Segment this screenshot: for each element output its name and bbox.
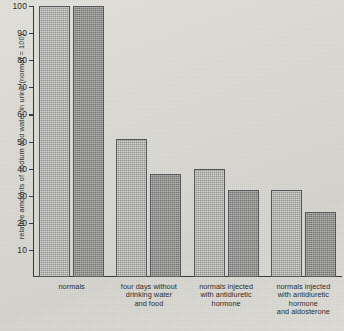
bar-sodium-3 [194,169,225,277]
x-axis-category-line: and aldosterone [257,308,344,316]
y-axis-tick-label: 70 [17,82,27,92]
y-axis-tick-label: 10 [17,245,27,255]
bar-chart: relative amounts of sodium and water in … [0,0,344,331]
bar-water-1 [73,6,104,277]
bar-water-2 [150,174,181,277]
y-axis-tick-label: 80 [17,55,27,65]
bar-sodium-2 [116,139,147,277]
y-axis-tick [29,169,34,170]
y-axis-tick-label: 20 [17,218,27,228]
y-axis-tick [29,114,34,115]
y-axis-tick [29,60,34,61]
y-axis-tick-label: 100 [12,1,27,11]
y-axis-tick [29,142,34,143]
y-axis-tick [29,250,34,251]
y-axis-tick-label: 90 [17,28,27,38]
plot-area: 102030405060708090100 [33,6,342,277]
y-axis-tick [29,223,34,224]
y-axis-tick [29,196,34,197]
bar-water-4 [305,212,336,277]
y-axis-tick-label: 30 [17,191,27,201]
bar-sodium-1 [39,6,70,277]
y-axis-tick-label: 60 [17,109,27,119]
y-axis-tick [29,6,34,7]
y-axis-tick [29,87,34,88]
bar-water-3 [228,190,259,277]
y-axis-tick [29,33,34,34]
x-axis-category-label: normals injectedwith antidiuretichormone… [257,283,344,317]
bar-sodium-4 [271,190,302,277]
y-axis-tick-label: 40 [17,164,27,174]
y-axis-tick-label: 50 [17,137,27,147]
